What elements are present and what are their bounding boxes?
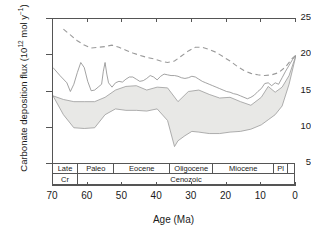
y-axis-title-text-1: Carbonate deposition flux (10 <box>18 48 29 172</box>
timescale-epoch-paleo: Paleo <box>78 164 114 173</box>
upper-solid-series-line <box>53 55 296 99</box>
x-tick-label-20: 20 <box>211 190 241 201</box>
x-tick-label-50: 50 <box>106 190 136 201</box>
plot-area <box>52 18 295 163</box>
x-tick-label-60: 60 <box>72 190 102 201</box>
timescale-epoch-row: LatePaleoEoceneOligoceneMiocenePl <box>52 163 295 174</box>
x-tick-label-30: 30 <box>176 190 206 201</box>
x-axis-line <box>52 185 295 186</box>
y-axis-title-text-3: ) <box>18 4 29 7</box>
chart-canvas <box>53 19 296 164</box>
y-axis-exponent-12: 12 <box>17 40 24 47</box>
timescale-epoch-oligocene: Oligocene <box>170 164 213 173</box>
timescale-epoch-miocene: Miocene <box>213 164 274 173</box>
x-tick-top-20 <box>226 18 227 22</box>
y-axis-exponent-minus1: −1 <box>17 8 24 15</box>
x-tick-top-40 <box>156 18 157 22</box>
timescale-period-row: CrCenozoic <box>52 174 295 185</box>
x-tick-0 <box>295 182 296 186</box>
x-tick-top-30 <box>191 18 192 22</box>
y-axis-title: Carbonate deposition flux (1012 mol y−1) <box>17 3 29 173</box>
x-tick-label-40: 40 <box>141 190 171 201</box>
x-axis-title: Age (Ma) <box>52 214 295 225</box>
x-tick-top-60 <box>87 18 88 22</box>
x-tick-label-0: 0 <box>280 190 310 201</box>
dashed-series-line <box>63 29 296 75</box>
x-tick-top-70 <box>52 18 53 22</box>
y-axis-title-text-2: mol y <box>18 15 29 40</box>
timescale-period-cr: Cr <box>52 174 78 184</box>
timescale-epoch-late: Late <box>52 164 78 173</box>
x-tick-top-10 <box>260 18 261 22</box>
timescale-epoch-eocene: Eocene <box>114 164 170 173</box>
x-tick-label-70: 70 <box>37 190 67 201</box>
x-tick-top-0 <box>295 18 296 22</box>
x-tick-label-10: 10 <box>245 190 275 201</box>
carbonate-flux-figure: Carbonate deposition flux (1012 mol y−1)… <box>0 0 311 236</box>
timescale-epoch-unlabeled <box>288 164 295 173</box>
uncertainty-band <box>53 55 296 146</box>
timescale-period-cenozoic: Cenozoic <box>78 174 295 184</box>
x-tick-top-50 <box>121 18 122 22</box>
timescale-epoch-pl: Pl <box>274 164 288 173</box>
